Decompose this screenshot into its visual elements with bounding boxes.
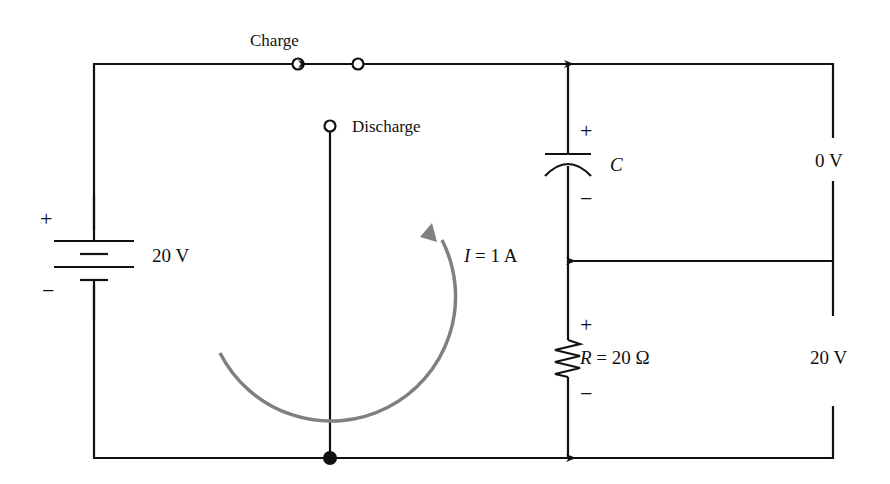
battery-icon [54,195,134,320]
resistor-value: = 20 Ω [592,347,650,368]
switch-discharge-contact [325,121,336,459]
battery-voltage-label: 20 V [152,246,189,265]
resistor-icon [555,340,580,377]
capacitor-minus: − [580,188,592,210]
battery-plus: + [40,208,52,230]
circuit-schematic [0,0,890,484]
circuit-diagram: Charge Discharge + − 20 V + C − 0 V I = … [0,0,890,484]
discharge-label: Discharge [352,118,421,135]
resistor-minus: − [580,383,592,405]
voltage-indicators [572,64,834,458]
battery-minus: − [42,280,54,302]
current-value: = 1 A [470,245,517,266]
junction-dot [323,451,337,465]
capacitor-voltage-label: 0 V [815,151,843,170]
resistor-plus: + [580,314,592,336]
current-label: I = 1 A [464,246,517,265]
capacitor-plus: + [580,120,592,142]
current-arrow-icon [220,223,456,421]
resistor-voltage-label: 20 V [810,348,847,367]
charge-label: Charge [250,32,299,49]
capacitor-label: C [610,155,623,174]
resistor-symbol: R [580,347,592,368]
switch-charge [293,59,569,70]
resistor-label: R = 20 Ω [580,348,650,367]
